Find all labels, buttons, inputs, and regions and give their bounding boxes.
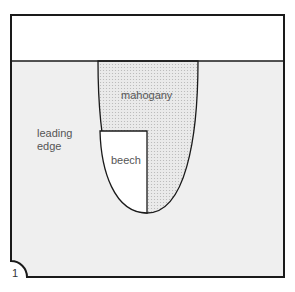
beech-label: beech (111, 154, 141, 167)
mahogany-label: mahogany (121, 89, 172, 102)
figure-number: 1 (12, 267, 18, 280)
leading-edge-label-1: leading (37, 127, 72, 140)
top-band (11, 15, 284, 61)
leading-edge-label-2: edge (37, 140, 61, 153)
